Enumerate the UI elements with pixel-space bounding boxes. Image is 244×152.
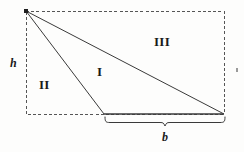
diagram-svg (0, 0, 244, 152)
edge-tick-mark-icon (236, 68, 238, 72)
label-base: b (162, 131, 168, 143)
label-height: h (10, 57, 17, 69)
label-region-three: III (154, 35, 170, 48)
figure-canvas: II I III h b (0, 0, 244, 152)
triangle-region-one (26, 11, 224, 114)
base-brace (105, 117, 225, 126)
label-region-one: I (97, 65, 102, 78)
label-region-two: II (39, 78, 50, 91)
vertex-dot-icon (24, 9, 28, 13)
